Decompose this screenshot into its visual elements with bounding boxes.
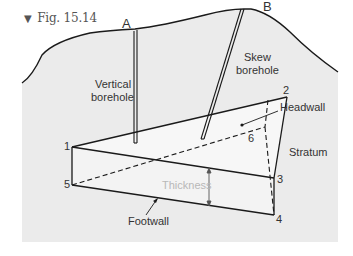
headwall-point <box>240 123 243 126</box>
label-skew-2: borehole <box>236 64 279 76</box>
vertex-3: 3 <box>277 173 283 185</box>
borehole-stratum-diagram: A B Vertical borehole Skew borehole Head… <box>0 0 353 256</box>
vertex-4: 4 <box>276 213 282 225</box>
vertex-5: 5 <box>64 178 70 190</box>
vertex-2: 2 <box>283 84 289 96</box>
label-stratum: Stratum <box>289 146 328 158</box>
label-borehole-b: B <box>263 0 272 14</box>
vertex-1: 1 <box>64 140 70 152</box>
label-borehole-a: A <box>122 16 131 31</box>
label-thickness: Thickness <box>162 179 212 191</box>
label-skew-1: Skew <box>244 51 271 63</box>
vertex-6: 6 <box>248 132 254 144</box>
label-vertical-2: borehole <box>91 91 134 103</box>
label-headwall: Headwall <box>280 101 325 113</box>
label-vertical-1: Vertical <box>95 78 131 90</box>
label-footwall: Footwall <box>128 215 169 227</box>
